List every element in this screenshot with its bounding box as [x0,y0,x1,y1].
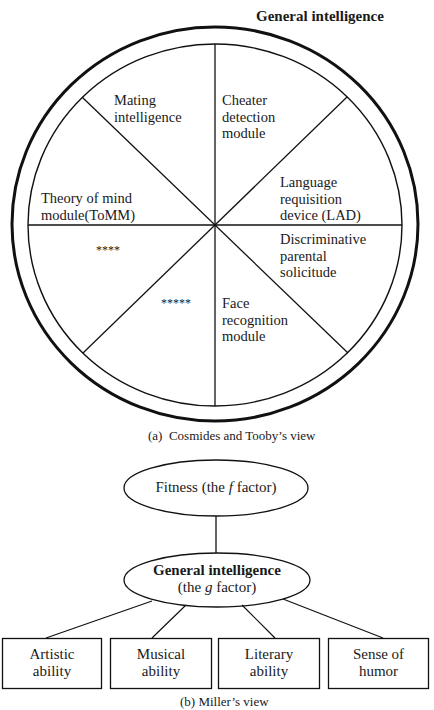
segment-face-recognition: Face recognition module [222,295,288,345]
caption-a: (a) Cosmides and Tooby’s view [148,428,315,444]
g-factor-node: General intelligence(the g factor) [124,562,310,596]
circle-title: General intelligence [256,8,384,25]
box-musical-ability: Musical ability [110,646,212,680]
g-node-title: General intelligence [153,562,281,578]
g-node-sub-suffix: factor) [212,579,256,595]
segment-theory-of-mind: Theory of mind module(ToMM) [41,190,135,223]
fitness-label-prefix: Fitness (the [155,479,228,495]
fitness-node: Fitness (the f factor) [124,479,308,496]
box-sense-of-humor: Sense of humor [328,646,429,680]
segment-unknown-five-stars: ***** [161,296,191,311]
segment-mating-intelligence: Mating intelligence [114,92,182,125]
segment-unknown-four-stars: **** [96,243,120,258]
connector-musical [152,605,186,638]
segment-language-acquisition: Language requisition device (LAD) [280,174,361,224]
fitness-label-suffix: factor) [233,479,277,495]
connector-artistic [46,601,152,638]
connector-humor [283,599,383,638]
g-node-sub-prefix: (the [178,579,205,595]
segment-cheater-detection: Cheater detection module [222,92,275,142]
box-literary-ability: Literary ability [218,646,320,680]
caption-b: (b) Miller’s view [180,694,269,710]
connector-literary [242,605,275,638]
box-artistic-ability: Artistic ability [2,646,102,680]
segment-parental-solicitude: Discriminative parental solicitude [280,231,366,281]
